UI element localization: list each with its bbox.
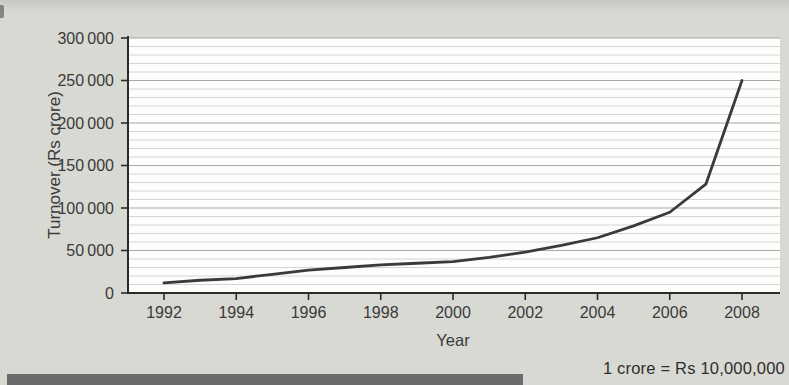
y-tick-label: 50 000: [66, 242, 114, 259]
y-tick-label: 250 000: [57, 72, 114, 89]
y-axis-title: Turnover (Rs crore): [45, 91, 64, 239]
x-tick-label: 2004: [580, 304, 616, 321]
x-tick-label: 2008: [724, 304, 760, 321]
y-tick-label: 0: [105, 285, 114, 302]
y-tick-label: 300 000: [57, 30, 114, 47]
y-tick-label: 150 000: [57, 157, 114, 174]
y-tick-label: 200 000: [57, 115, 114, 132]
x-tick-label: 1994: [218, 304, 254, 321]
x-axis-title: Year: [436, 331, 470, 349]
x-tick-label: 2006: [652, 304, 688, 321]
chart-canvas: 050 000100 000150 000200 000250 000300 0…: [0, 0, 789, 385]
section-heading-bar: [7, 374, 523, 385]
x-tick-label: 1998: [363, 304, 399, 321]
x-tick-label: 1996: [291, 304, 327, 321]
crore-definition-note: 1 crore = Rs 10,000,000: [603, 359, 785, 378]
y-tick-label: 100 000: [57, 200, 114, 217]
x-tick-label: 2000: [435, 304, 471, 321]
turnover-line-chart: 050 000100 000150 000200 000250 000300 0…: [0, 0, 789, 385]
x-tick-label: 1992: [146, 304, 182, 321]
x-tick-label: 2002: [507, 304, 543, 321]
